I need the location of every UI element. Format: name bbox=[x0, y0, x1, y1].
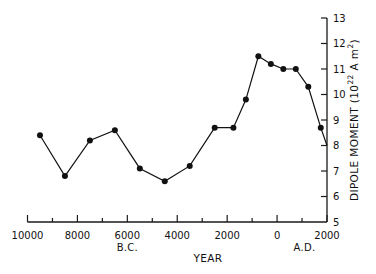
data-point-marker bbox=[212, 125, 218, 131]
data-point-marker bbox=[37, 132, 43, 138]
x-tick-label: 10000 bbox=[12, 230, 44, 241]
series-line bbox=[40, 56, 327, 181]
y-tick-label: 13 bbox=[333, 13, 346, 24]
data-point-marker bbox=[255, 53, 261, 59]
y-tick-label: 8 bbox=[333, 140, 339, 151]
y-tick-label: 12 bbox=[333, 38, 346, 49]
era-label-bc: B.C. bbox=[117, 242, 138, 253]
data-point-marker bbox=[268, 61, 274, 67]
data-point-marker bbox=[62, 173, 68, 179]
y-tick-label: 5 bbox=[333, 217, 339, 228]
x-tick-label: 6000 bbox=[115, 230, 140, 241]
y-tick-label: 6 bbox=[333, 191, 339, 202]
y-tick-label: 10 bbox=[333, 89, 346, 100]
y-tick-label: 11 bbox=[333, 64, 346, 75]
data-point-marker bbox=[293, 66, 299, 72]
era-label-ad: A.D. bbox=[294, 242, 316, 253]
x-axis-title: YEAR bbox=[192, 252, 222, 264]
y-tick-label: 9 bbox=[333, 115, 339, 126]
data-point-marker bbox=[280, 66, 286, 72]
dipole-moment-chart: 10000800060004000200002000 5678910111213… bbox=[0, 0, 376, 274]
x-tick-label: 2000 bbox=[214, 230, 239, 241]
data-series bbox=[37, 53, 327, 184]
x-tick-label: 4000 bbox=[165, 230, 190, 241]
x-tick-label: 2000 bbox=[314, 230, 339, 241]
data-point-marker bbox=[187, 163, 193, 169]
y-axis: 5678910111213 bbox=[321, 13, 346, 228]
x-tick-label: 0 bbox=[274, 230, 280, 241]
data-point-marker bbox=[305, 84, 311, 90]
y-axis-title: DIPOLE MOMENT (1022 A m2) bbox=[346, 39, 360, 201]
data-point-marker bbox=[318, 125, 324, 131]
data-point-marker bbox=[162, 178, 168, 184]
data-point-marker bbox=[243, 97, 249, 103]
data-point-marker bbox=[87, 137, 93, 143]
x-axis: 10000800060004000200002000 bbox=[12, 215, 340, 241]
data-point-marker bbox=[137, 165, 143, 171]
x-tick-label: 8000 bbox=[65, 230, 90, 241]
data-point-marker bbox=[112, 127, 118, 133]
data-point-marker bbox=[230, 125, 236, 131]
y-tick-label: 7 bbox=[333, 166, 339, 177]
